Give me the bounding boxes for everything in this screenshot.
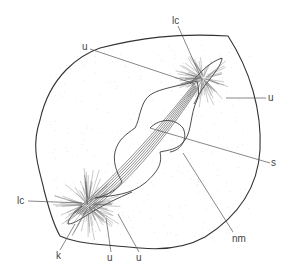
hair <box>55 196 82 205</box>
stipple-dot <box>82 144 83 145</box>
stipple-dot <box>128 77 129 78</box>
hair <box>203 84 214 105</box>
stipple-dot <box>213 164 214 165</box>
hair <box>89 170 93 199</box>
stipple-dot <box>50 64 51 65</box>
stipple-dot <box>212 153 213 154</box>
stipple-dot <box>122 212 123 213</box>
stipple-dot <box>164 225 165 226</box>
stipple-dot <box>153 194 154 195</box>
stipple-dot <box>131 176 132 177</box>
stipple-dot <box>240 189 241 190</box>
stipple-dot <box>104 52 105 53</box>
stipple-dot <box>81 101 82 102</box>
stipple-dot <box>198 192 199 193</box>
stipple-dot <box>245 189 246 190</box>
stipple-dot <box>198 181 199 182</box>
strand <box>75 85 195 213</box>
stipple-dot <box>84 221 85 222</box>
stipple-dot <box>159 55 160 56</box>
stipple-dot <box>232 105 233 106</box>
stipple-dot <box>52 152 53 153</box>
stipple-dot <box>105 157 106 158</box>
stipple-dot <box>105 172 106 173</box>
stipple-dot <box>108 112 109 113</box>
stipple-dot <box>137 183 138 184</box>
stipple-dot <box>195 236 196 237</box>
stipple-dot <box>95 231 96 232</box>
stipple-dot <box>91 129 92 130</box>
stipple-dot <box>144 141 145 142</box>
stipple-dot <box>66 148 67 149</box>
stipple-dot <box>235 54 236 55</box>
stipple-dot <box>190 130 191 131</box>
stipple-dot <box>218 138 219 139</box>
stipple-dot <box>232 228 233 229</box>
stipple-dot <box>64 182 65 183</box>
stipple-dot <box>57 244 58 245</box>
stipple-dot <box>56 178 57 179</box>
stipple-dot <box>165 173 166 174</box>
stipple-dot <box>57 216 58 217</box>
stipple-dot <box>125 66 126 67</box>
stipple-dot <box>198 143 199 144</box>
stipple-dot <box>55 180 56 181</box>
diagram-svg: lc u u s nm lc k u u <box>0 0 292 277</box>
stipple-dot <box>202 45 203 46</box>
stipple-dot <box>221 112 222 113</box>
stipple-dot <box>206 209 207 210</box>
stipple-dot <box>122 215 123 216</box>
stipple-dot <box>102 133 103 134</box>
stipple-dot <box>63 234 64 235</box>
stipple-dot <box>177 170 178 171</box>
stipple-dot <box>230 191 231 192</box>
stipple-dot <box>134 113 135 114</box>
stipple-dot <box>241 100 242 101</box>
stipple-dot <box>117 132 118 133</box>
leader-s <box>150 128 270 163</box>
stipple-dot <box>242 219 243 220</box>
stipple-dot <box>240 68 241 69</box>
stipple-dot <box>172 217 173 218</box>
stipple-dot <box>172 50 173 51</box>
stipple-dot <box>55 159 56 160</box>
stipple-dot <box>89 243 90 244</box>
stipple-dot <box>66 65 67 66</box>
stipple-dot <box>132 227 133 228</box>
stipple-dot <box>226 232 227 233</box>
stipple-dot <box>169 215 170 216</box>
stipple-dot <box>62 96 63 97</box>
stipple-dot <box>108 81 109 82</box>
label-k: k <box>56 250 62 261</box>
label-u-upper-left: u <box>82 41 88 52</box>
stipple-dot <box>125 67 126 68</box>
stipple-dot <box>70 191 71 192</box>
hair <box>176 71 197 77</box>
stipple-dot <box>87 126 88 127</box>
stipple-dot <box>92 241 93 242</box>
stipple-dot <box>76 98 77 99</box>
stipple-dot <box>54 157 55 158</box>
stipple-dot <box>229 52 230 53</box>
stipple-dot <box>181 213 182 214</box>
stipple-dot <box>226 92 227 93</box>
label-s: s <box>271 157 276 168</box>
stipple-dot <box>227 148 228 149</box>
stipple-dot <box>218 169 219 170</box>
stipple-dot <box>109 48 110 49</box>
stipple-dot <box>204 90 205 91</box>
stipple-dot <box>214 241 215 242</box>
stipple-dot <box>86 128 87 129</box>
stipple-dot <box>120 234 121 235</box>
stipple-dot <box>67 133 68 134</box>
stipple-dot <box>116 85 117 86</box>
stipple-dot <box>55 121 56 122</box>
stipple-dot <box>120 54 121 55</box>
stipple-dot <box>145 129 146 130</box>
stipple-dot <box>250 56 251 57</box>
stipple-dot <box>204 222 205 223</box>
stipple-dot <box>50 124 51 125</box>
stipple-dot <box>85 65 86 66</box>
stipple-dot <box>95 72 96 73</box>
stipple-dot <box>161 81 162 82</box>
